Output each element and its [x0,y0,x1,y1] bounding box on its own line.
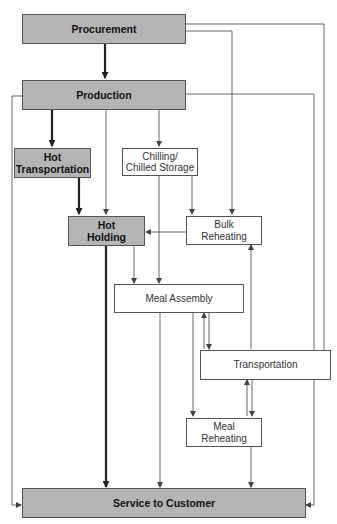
node-production-label: Production [76,89,131,101]
node-hot-holding-line2: Holding [87,231,126,243]
node-production: Production [22,80,186,110]
node-chilling-line1: Chilling/ [142,151,178,163]
node-meal-reheating-line1: Meal [213,421,235,433]
node-procurement: Procurement [22,14,186,44]
node-hot-transportation: Hot Transportation [14,148,91,178]
node-bulk-reheating: Bulk Reheating [186,216,262,245]
node-meal-reheating: Meal Reheating [186,418,262,447]
node-service-label: Service to Customer [113,497,215,509]
node-chilling: Chilling/ Chilled Storage [122,148,198,176]
node-bulk-reheating-line1: Bulk [214,219,233,231]
node-meal-reheating-line2: Reheating [201,433,247,445]
edge-procurement-bulk-reheating [186,31,232,214]
node-transportation: Transportation [200,350,331,380]
node-transportation-label: Transportation [233,359,297,371]
node-hot-holding-line1: Hot [98,219,116,231]
flow-connectors [0,0,337,524]
node-hot-holding: Hot Holding [68,216,145,246]
node-meal-assembly: Meal Assembly [114,284,244,313]
node-hot-transportation-line1: Hot [44,151,62,163]
node-procurement-label: Procurement [72,23,137,35]
node-bulk-reheating-line2: Reheating [201,231,247,243]
node-service-to-customer: Service to Customer [22,488,306,518]
edge-transportation-service [306,378,314,505]
node-chilling-line2: Chilled Storage [126,162,194,174]
node-hot-transportation-line2: Transportation [16,163,90,175]
node-meal-assembly-label: Meal Assembly [145,293,212,305]
